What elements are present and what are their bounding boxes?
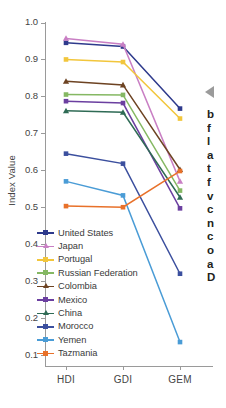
data-point-marker <box>178 116 183 121</box>
series-united-states <box>64 41 183 111</box>
data-point-marker <box>178 169 183 174</box>
data-point-marker <box>121 93 126 98</box>
legend-item-mexico[interactable]: Mexico <box>37 293 157 306</box>
data-point-marker <box>121 205 126 210</box>
side-body-text: bflatfvcncoaD <box>207 108 226 285</box>
series-line <box>66 101 180 208</box>
data-point-marker <box>64 151 69 156</box>
legend-item-tazmania[interactable]: Tazmania <box>37 347 157 360</box>
data-point-marker <box>121 101 126 106</box>
legend-label: Mexico <box>58 295 87 305</box>
legend-item-portugal[interactable]: Portugal <box>37 253 157 266</box>
legend-item-japan[interactable]: Japan <box>37 239 157 252</box>
side-text-line: a <box>207 258 226 272</box>
legend-item-morocco[interactable]: Morocco <box>37 320 157 333</box>
legend-swatch-icon <box>37 240 54 252</box>
side-text-line: c <box>207 203 226 217</box>
side-text-line: c <box>207 230 226 244</box>
legend-swatch-icon <box>37 320 54 332</box>
legend-swatch-icon <box>37 227 54 239</box>
legend-swatch-icon <box>37 347 54 359</box>
legend-swatch-icon <box>37 294 54 306</box>
side-text-line: f <box>207 176 226 190</box>
data-point-marker <box>121 161 126 166</box>
legend-label: Portugal <box>58 254 92 264</box>
side-text-line: f <box>207 122 226 136</box>
side-text-line: v <box>207 190 226 204</box>
data-point-marker <box>64 92 69 97</box>
side-text-line: t <box>207 162 226 176</box>
data-point-marker <box>64 41 69 46</box>
series-line <box>66 111 180 197</box>
legend-label: Japan <box>58 241 83 251</box>
legend-swatch-icon <box>37 267 54 279</box>
legend-item-yemen[interactable]: Yemen <box>37 333 157 346</box>
legend-swatch-icon <box>37 253 54 265</box>
legend-label: China <box>58 308 82 318</box>
data-point-marker <box>64 57 69 62</box>
side-text-line: b <box>207 108 226 122</box>
data-point-marker <box>178 271 183 276</box>
legend-label: Russian Federation <box>58 268 138 278</box>
legend-item-colombia[interactable]: Colombia <box>37 280 157 293</box>
data-point-marker <box>178 188 183 193</box>
legend-label: United States <box>58 228 113 238</box>
series-line <box>66 43 180 109</box>
data-point-marker <box>121 193 126 198</box>
series-china <box>63 108 183 200</box>
side-text-line: n <box>207 217 226 231</box>
data-point-marker <box>178 340 183 345</box>
data-point-marker <box>178 106 183 111</box>
data-point-marker <box>64 204 69 209</box>
data-point-marker <box>178 206 183 211</box>
data-point-marker <box>177 178 183 184</box>
side-text-line: l <box>207 135 226 149</box>
legend-swatch-icon <box>37 307 54 319</box>
legend-item-russian-federation[interactable]: Russian Federation <box>37 266 157 279</box>
side-text-line: D <box>207 271 226 285</box>
chart-figure: Index Value 1.00.90.80.70.60.50.40.30.20… <box>0 0 226 408</box>
legend-label: Morocco <box>58 321 93 331</box>
chart-legend: United StatesJapanPortugalRussian Federa… <box>37 226 157 360</box>
legend-item-united-states[interactable]: United States <box>37 226 157 239</box>
data-point-marker <box>64 99 69 104</box>
legend-item-china[interactable]: China <box>37 306 157 319</box>
data-point-marker <box>121 60 126 65</box>
legend-label: Yemen <box>58 335 86 345</box>
side-text-line: o <box>207 244 226 258</box>
legend-swatch-icon <box>37 280 54 292</box>
data-point-marker <box>64 179 69 184</box>
callout-arrow-icon <box>205 86 214 98</box>
legend-label: Tazmania <box>58 348 97 358</box>
legend-label: Colombia <box>58 281 97 291</box>
legend-swatch-icon <box>37 334 54 346</box>
side-text-line: a <box>207 149 226 163</box>
